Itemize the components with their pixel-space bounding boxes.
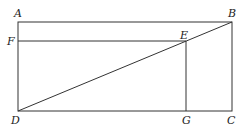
label-a: A <box>13 7 22 20</box>
label-f: F <box>6 35 15 48</box>
label-e: E <box>179 29 188 42</box>
label-b: B <box>227 7 236 20</box>
label-c: C <box>227 114 236 127</box>
geometry-diagram: A B F E D G C <box>0 0 243 135</box>
label-d: D <box>10 114 20 127</box>
label-g: G <box>182 114 191 127</box>
diagonal-db <box>18 22 232 111</box>
